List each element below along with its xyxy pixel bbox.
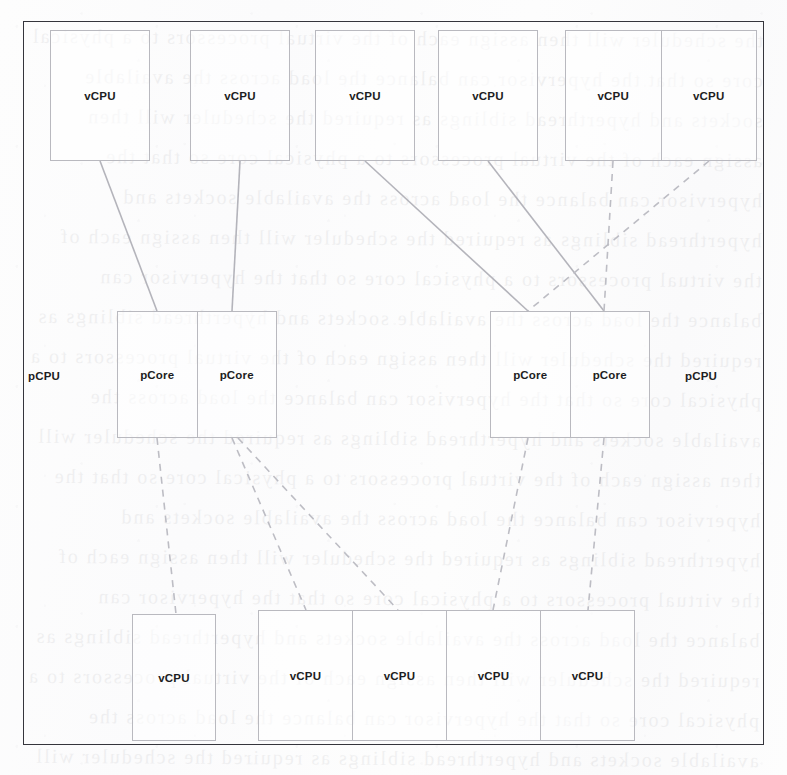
pcore-box-left-1[interactable]: pCore [118, 312, 198, 437]
vcpu-label: vCPU [353, 670, 446, 682]
vcpu-label: vCPU [541, 670, 634, 682]
vcpu-box-bottom-3[interactable]: vCPU [353, 611, 447, 740]
vcpu-box-bottom-5[interactable]: vCPU [541, 611, 634, 740]
vcpu-group-bottom-quad: vCPU vCPU vCPU vCPU [258, 610, 635, 741]
vcpu-label: vCPU [447, 670, 540, 682]
pcore-label: pCore [118, 369, 197, 381]
pcore-box-right-2[interactable]: pCore [571, 312, 650, 437]
vcpu-box-top-5[interactable]: vCPU [566, 31, 662, 160]
pcore-label: pCore [571, 369, 650, 381]
vcpu-box-bottom-1[interactable]: vCPU [132, 614, 216, 741]
vcpu-label: vCPU [191, 90, 289, 102]
pcpu-label-left: pCPU [28, 370, 60, 382]
diagram-page: the scheduler will then assign each of t… [0, 0, 787, 775]
vcpu-box-top-4[interactable]: vCPU [438, 30, 538, 161]
vcpu-label: vCPU [566, 90, 661, 102]
vcpu-label: vCPU [662, 90, 757, 102]
pcore-label: pCore [491, 369, 570, 381]
vcpu-label: vCPU [51, 90, 149, 102]
pcpu-box-left: pCore pCore [117, 311, 277, 438]
vcpu-box-bottom-2[interactable]: vCPU [259, 611, 353, 740]
vcpu-box-bottom-4[interactable]: vCPU [447, 611, 541, 740]
pcore-box-left-2[interactable]: pCore [198, 312, 277, 437]
vcpu-box-top-2[interactable]: vCPU [190, 30, 290, 161]
pcpu-box-right: pCore pCore [490, 311, 650, 438]
pcpu-label-right: pCPU [685, 370, 717, 382]
vcpu-label: vCPU [439, 90, 537, 102]
vcpu-box-top-6[interactable]: vCPU [662, 31, 757, 160]
pcore-box-right-1[interactable]: pCore [491, 312, 571, 437]
vcpu-box-top-3[interactable]: vCPU [315, 30, 415, 161]
vcpu-group-top-pair: vCPU vCPU [565, 30, 757, 161]
vcpu-label: vCPU [259, 670, 352, 682]
vcpu-label: vCPU [133, 672, 215, 684]
vcpu-box-top-1[interactable]: vCPU [50, 30, 150, 161]
vcpu-label: vCPU [316, 90, 414, 102]
pcore-label: pCore [198, 369, 277, 381]
